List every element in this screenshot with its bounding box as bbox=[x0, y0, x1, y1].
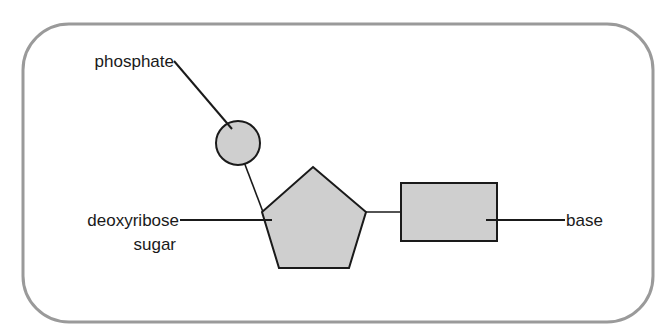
phosphate-circle bbox=[216, 121, 260, 165]
base-label: base bbox=[566, 211, 603, 230]
phosphate-label: phosphate bbox=[95, 52, 174, 71]
sugar-label-line2: sugar bbox=[133, 235, 176, 254]
base-rectangle bbox=[401, 183, 497, 241]
nucleotide-diagram: phosphate deoxyribose sugar base bbox=[0, 0, 672, 334]
sugar-label-line1: deoxyribose bbox=[87, 211, 179, 230]
